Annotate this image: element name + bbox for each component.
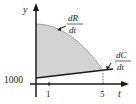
x-axis-arrow-icon [121,81,129,87]
y-axis-arrow-icon [33,3,39,11]
dc-dt-denominator: dt [117,62,125,72]
x-axis-label: t [118,88,121,99]
y-axis-label: y [22,4,28,15]
y-tick-label-1000: 1000 [4,75,23,85]
x-tick-label-5: 5 [100,89,105,99]
dr-dt-numerator: dR [68,13,79,23]
dc-dt-numerator: dC [116,50,128,60]
dr-dt-denominator: dt [69,25,77,35]
diagram-canvas: y t 1000 1 5 dR dt dC dt [0,0,136,104]
x-tick-label-1: 1 [46,89,51,99]
